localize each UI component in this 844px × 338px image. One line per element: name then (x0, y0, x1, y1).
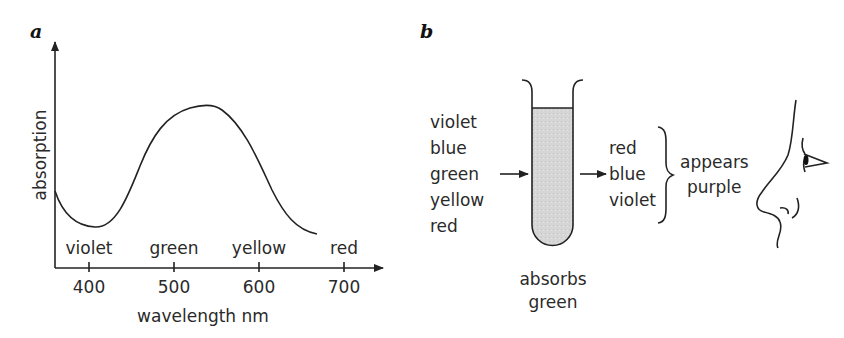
face-profile-icon (757, 100, 827, 248)
transmitted-color: red (609, 138, 637, 158)
absorption-curve (55, 105, 317, 234)
y-axis-title: absorption (30, 110, 50, 201)
panel-a-label: a (30, 20, 42, 42)
color-region-label: yellow (232, 238, 286, 258)
incoming-color: red (430, 216, 458, 236)
color-region-label: red (330, 238, 358, 258)
curly-brace-icon (658, 127, 673, 223)
transmitted-color: blue (609, 164, 646, 184)
color-region-label: green (149, 238, 198, 258)
color-region-label: violet (65, 238, 112, 258)
x-ticks (89, 262, 344, 272)
test-tube (522, 80, 583, 246)
x-tick-label: 700 (328, 277, 360, 297)
result-text: appears (680, 152, 749, 172)
x-tick-label: 500 (158, 277, 190, 297)
tube-caption: absorbs (519, 269, 586, 289)
x-tick-label: 400 (73, 277, 105, 297)
x-tick-label: 600 (243, 277, 275, 297)
tube-liquid (532, 108, 573, 246)
panel-b-diagram: b violet blue green yellow red absorbs g… (420, 20, 827, 312)
panel-b-label: b (420, 20, 433, 42)
incoming-color: yellow (430, 190, 484, 210)
transmitted-color: violet (609, 190, 656, 210)
panel-a-chart: a 400 500 600 700 violet green yellow re… (30, 20, 383, 326)
figure: a 400 500 600 700 violet green yellow re… (0, 0, 844, 338)
incoming-color: violet (430, 112, 477, 132)
incoming-color: blue (430, 138, 467, 158)
x-axis-title: wavelength nm (137, 306, 269, 326)
incoming-color: green (430, 164, 479, 184)
result-text: purple (687, 177, 742, 197)
tube-caption: green (528, 292, 577, 312)
